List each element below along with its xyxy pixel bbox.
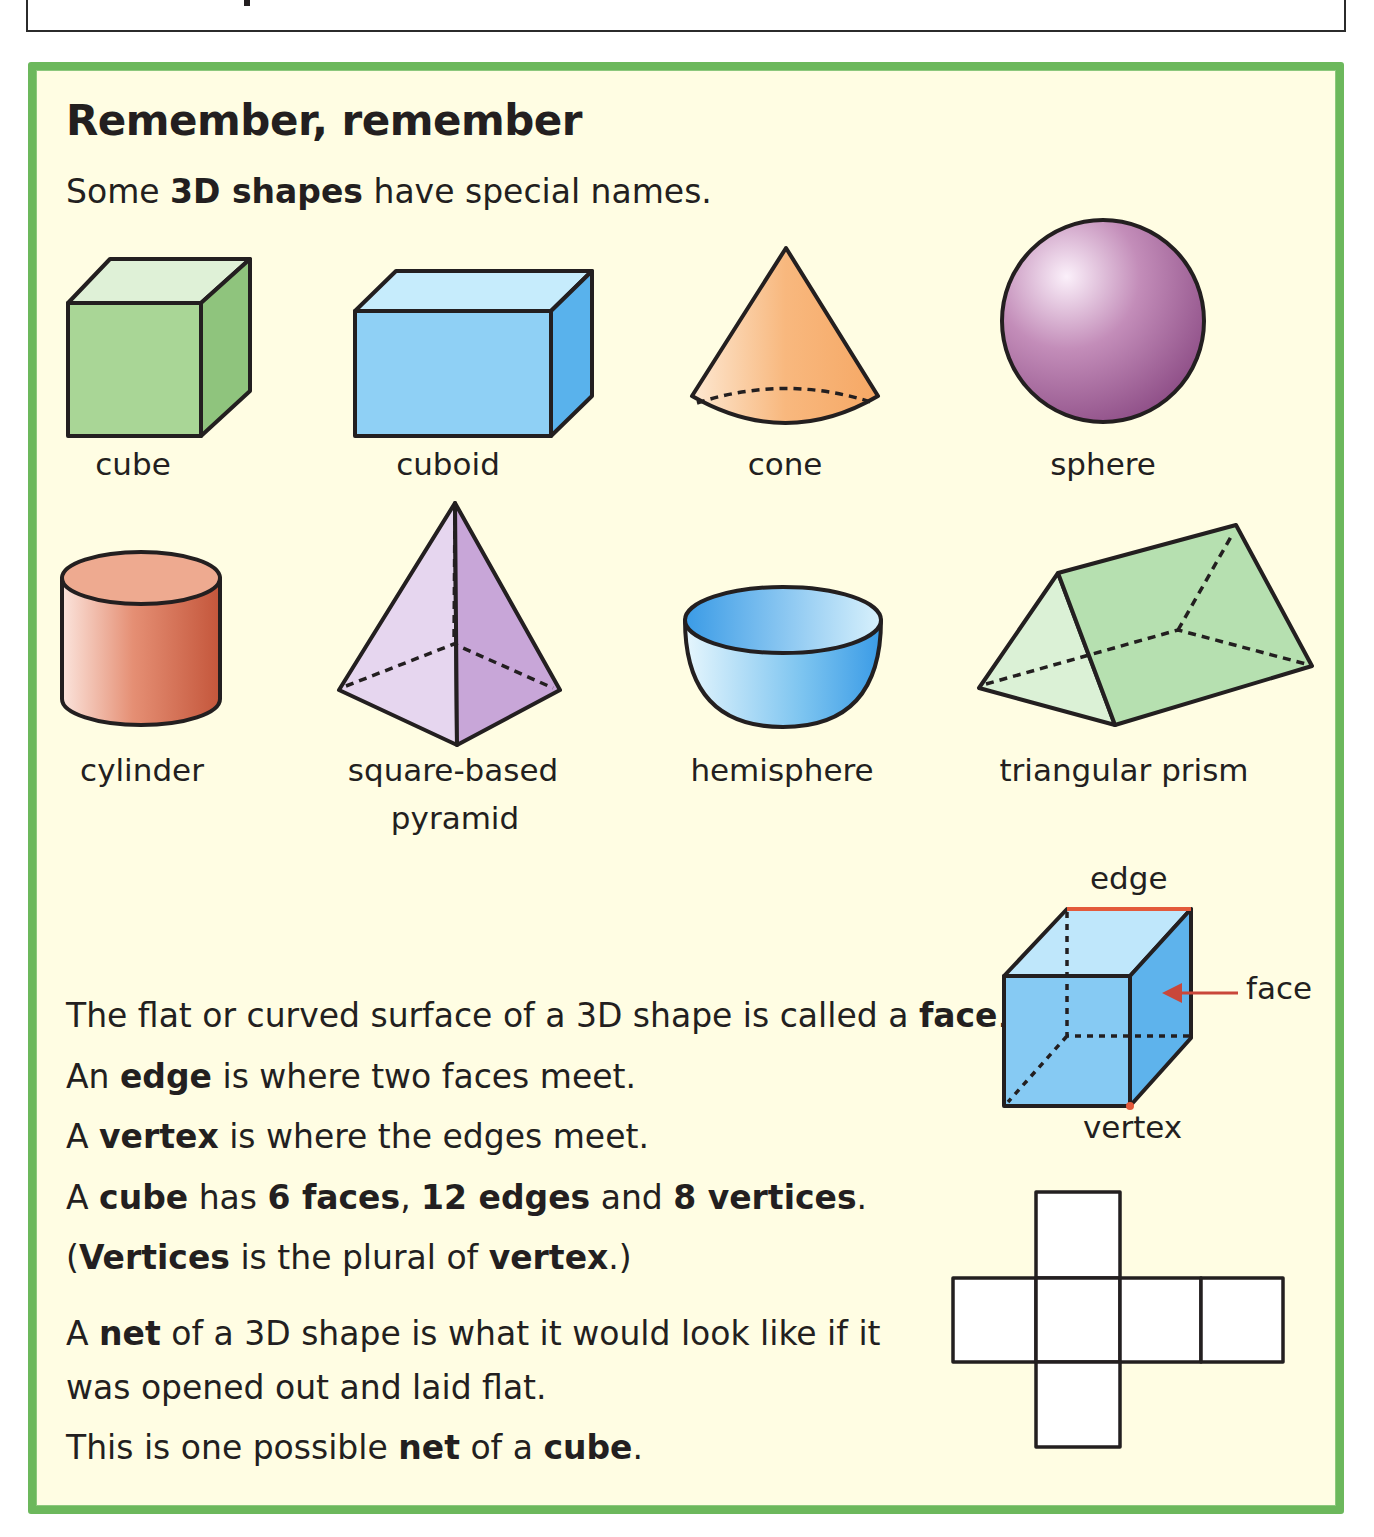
fact-line: A net of a 3D shape is what it would loo… <box>66 1314 881 1353</box>
text-run: , <box>400 1178 421 1217</box>
bold-term: 12 edges <box>421 1178 590 1217</box>
fact-line: A vertex is where the edges meet. <box>66 1117 649 1156</box>
text-run: A <box>66 1178 99 1217</box>
text-run: A <box>66 1314 99 1353</box>
bold-term: edge <box>120 1057 212 1096</box>
text-run: The flat or curved surface of a 3D shape… <box>66 996 919 1035</box>
text-run: An <box>66 1057 120 1096</box>
text-run: is where two faces meet. <box>212 1057 636 1096</box>
bold-term: net <box>398 1428 460 1467</box>
text-run: was opened out and laid flat. <box>66 1368 547 1407</box>
text-run: This is one possible <box>66 1428 398 1467</box>
cylinder-icon <box>62 552 220 725</box>
label-cuboid: cuboid <box>396 440 500 488</box>
bold-term: face <box>919 996 998 1035</box>
fact-line: A cube has 6 faces, 12 edges and 8 verti… <box>66 1178 867 1217</box>
text-run: of a 3D shape is what it would look like… <box>161 1314 881 1353</box>
fact-line: (Vertices is the plural of vertex.) <box>66 1238 632 1277</box>
square-based-pyramid-icon <box>339 503 560 745</box>
bold-term: 8 vertices <box>673 1178 856 1217</box>
text-run: and <box>590 1178 673 1217</box>
bold-term: cube <box>543 1428 632 1467</box>
triangular-prism-icon <box>979 525 1312 725</box>
fact-line: An edge is where two faces meet. <box>66 1057 636 1096</box>
text-run: is the plural of <box>230 1238 489 1277</box>
hemisphere-icon <box>685 587 881 727</box>
cube-icon <box>68 259 250 436</box>
bold-term: cube <box>99 1178 188 1217</box>
bold-term: net <box>99 1314 161 1353</box>
cuboid-icon <box>355 271 592 436</box>
text-run: . <box>633 1428 644 1467</box>
face-label: face <box>1246 970 1312 1006</box>
label-pyramid-line1: square-based <box>348 746 558 794</box>
vertex-label: vertex <box>1083 1109 1182 1145</box>
text-run: A <box>66 1117 99 1156</box>
sphere-icon <box>1002 220 1204 422</box>
fact-line: The flat or curved surface of a 3D shape… <box>66 996 1008 1035</box>
text-run: ( <box>66 1238 79 1277</box>
labelled-cube-diagram <box>1004 909 1238 1110</box>
label-triangular-prism: triangular prism <box>999 746 1248 794</box>
label-sphere: sphere <box>1050 440 1156 488</box>
bold-term: vertex <box>489 1238 609 1277</box>
fact-line: was opened out and laid flat. <box>66 1368 547 1407</box>
label-cone: cone <box>748 440 823 488</box>
label-cube: cube <box>95 440 170 488</box>
cube-net-icon <box>953 1192 1283 1447</box>
text-run: .) <box>608 1238 631 1277</box>
text-run: . <box>857 1178 868 1217</box>
bold-term: Vertices <box>79 1238 230 1277</box>
label-cylinder: cylinder <box>80 746 204 794</box>
cone-icon <box>692 248 878 423</box>
text-run: has <box>188 1178 267 1217</box>
bold-term: vertex <box>99 1117 219 1156</box>
bold-term: 6 faces <box>267 1178 400 1217</box>
text-run: . <box>997 996 1008 1035</box>
text-run: is where the edges meet. <box>219 1117 649 1156</box>
fact-line: This is one possible net of a cube. <box>66 1428 643 1467</box>
edge-label: edge <box>1090 860 1168 896</box>
label-pyramid-line2: pyramid <box>391 794 519 842</box>
label-hemisphere: hemisphere <box>690 746 873 794</box>
text-run: of a <box>460 1428 544 1467</box>
